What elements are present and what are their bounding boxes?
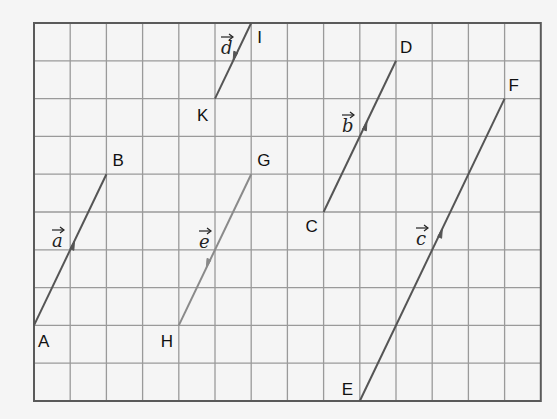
point-label-G: G (257, 151, 270, 170)
vector-a-label: a (52, 230, 63, 251)
point-label-A: A (38, 332, 50, 351)
point-label-D: D (400, 38, 412, 57)
background (0, 0, 557, 419)
vector-b-label: b (342, 115, 354, 136)
vector-d-label: d (221, 37, 233, 58)
point-label-E: E (342, 380, 353, 399)
point-label-C: C (306, 217, 318, 236)
vector-e-label: e (199, 231, 210, 252)
point-label-H: H (161, 332, 173, 351)
point-label-K: K (197, 106, 209, 125)
point-label-F: F (509, 76, 519, 95)
point-label-I: I (257, 28, 262, 47)
vector-grid-diagram: adebc ABIKGHCDEF (0, 0, 557, 419)
point-label-B: B (112, 151, 123, 170)
